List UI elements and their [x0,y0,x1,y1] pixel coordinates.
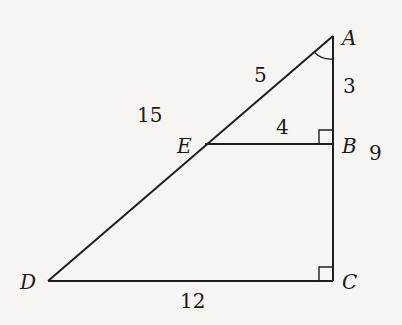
length-label-ED: 15 [137,103,162,127]
vertex-label-C: C [342,270,357,294]
angle-arc-A [314,52,333,59]
right-angle-mark-C [319,267,333,281]
length-label-BC: 9 [369,141,382,165]
vertex-label-B: B [341,134,357,158]
length-label-AE: 5 [254,63,267,87]
length-label-DC: 12 [180,289,205,313]
triangle-diagram: A B C D E 5 15 3 9 4 12 [0,0,402,325]
length-label-EB: 4 [276,115,289,139]
vertex-label-E: E [176,134,192,158]
segment-AD [48,36,333,281]
right-angle-mark-B [319,130,333,144]
vertex-label-D: D [19,270,36,294]
vertex-label-A: A [340,26,356,50]
length-label-AB: 3 [343,74,356,98]
